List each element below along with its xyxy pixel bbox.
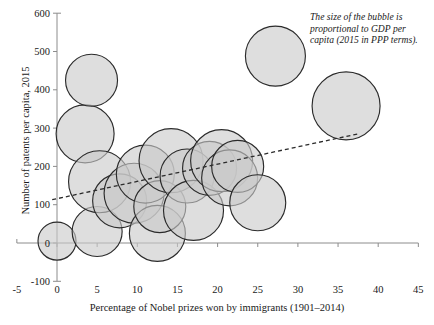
- y-axis-tick-label: -100: [31, 276, 50, 287]
- data-bubble: [38, 222, 76, 260]
- data-bubble: [230, 175, 286, 231]
- x-axis-tick-label: 35: [333, 284, 344, 295]
- x-axis-tick-label: 10: [132, 284, 143, 295]
- y-axis-tick-label: 300: [34, 123, 50, 134]
- x-axis-tick-label: 20: [212, 284, 223, 295]
- x-axis-tick-label: 30: [293, 284, 304, 295]
- x-axis-tick-label: -5: [12, 284, 21, 295]
- bubble-chart-figure: 6005004003002001000-100-5051015202530354…: [0, 0, 434, 325]
- x-axis-title: Percentage of Nobel prizes won by immigr…: [0, 302, 434, 313]
- x-axis-tick-label: 40: [373, 284, 384, 295]
- y-axis-tick-label: 400: [34, 84, 50, 95]
- bubble-size-annotation: The size of the bubble is proportional t…: [310, 11, 432, 46]
- x-axis-tick-label: 5: [95, 284, 100, 295]
- x-axis-tick-label: 0: [54, 284, 59, 295]
- x-axis-tick-label: 45: [413, 284, 424, 295]
- y-axis-tick-label: 500: [34, 46, 50, 57]
- y-axis-tick-label: 0: [45, 238, 50, 249]
- x-axis-tick-label: 15: [172, 284, 183, 295]
- x-axis-tick-label: 25: [253, 284, 264, 295]
- y-axis-tick-label: 100: [34, 199, 50, 210]
- y-axis-title: Number of patents per capita, 2015: [20, 46, 31, 236]
- y-axis-tick-label: 600: [34, 8, 50, 19]
- data-bubble: [312, 72, 380, 140]
- y-axis-tick-label: 200: [34, 161, 50, 172]
- data-bubble: [66, 54, 118, 106]
- chart-plot-area: 6005004003002001000-100-5051015202530354…: [0, 0, 434, 325]
- data-bubble: [245, 26, 305, 86]
